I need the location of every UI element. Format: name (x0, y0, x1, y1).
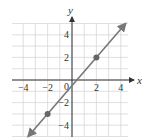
data-point (93, 54, 99, 60)
x-tick-label: −2 (42, 82, 53, 93)
x-tick-label: 2 (94, 82, 99, 93)
y-tick-label: −4 (58, 120, 69, 131)
y-tick-label: 4 (64, 29, 69, 40)
x-tick-label: −4 (18, 82, 29, 93)
coordinate-plane: xy−4−224042−2−4 (0, 0, 145, 140)
y-axis-label: y (67, 4, 73, 16)
data-point (45, 111, 51, 117)
x-axis-label: x (136, 74, 142, 86)
y-tick-label: 2 (64, 52, 69, 63)
x-tick-label: 4 (118, 82, 123, 93)
